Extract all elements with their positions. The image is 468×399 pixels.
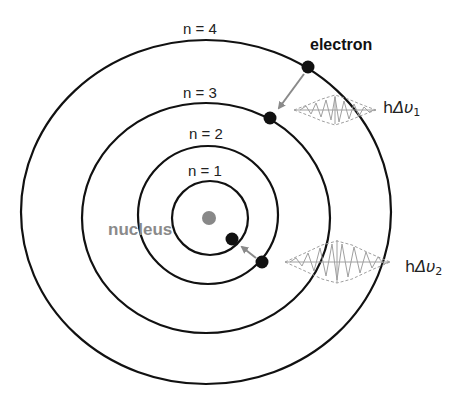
photon-label-1-delta: Δ [393, 98, 404, 117]
photon-label-2-nu: υ [426, 257, 435, 276]
nucleus-label: nucleus [108, 221, 172, 238]
photon-label-2-delta: Δ [415, 257, 426, 276]
photon-label-2-sub: 2 [435, 265, 442, 278]
orbit-label-n1: n = 1 [188, 163, 222, 178]
photon-label-1: hΔυ1 [383, 100, 420, 118]
orbit-label-n4: n = 4 [183, 21, 217, 36]
electron-n2 [256, 256, 269, 269]
photon-label-2-h: h [405, 257, 415, 276]
nucleus-dot [202, 211, 216, 225]
electron-n3 [264, 112, 277, 125]
orbit-label-n3: n = 3 [183, 85, 217, 100]
electron-label: electron [310, 37, 372, 53]
photon-label-1-h: h [383, 98, 393, 117]
photon-label-2: hΔυ2 [405, 259, 442, 277]
transition-arrow-2-to-1 [242, 247, 256, 258]
photon-wave-2-icon [285, 240, 390, 283]
orbit-label-n2: n = 2 [189, 126, 223, 141]
transition-arrow-4-to-3 [279, 74, 304, 108]
photon-label-1-nu: υ [404, 98, 413, 117]
electron-n4 [302, 61, 315, 74]
electron-n1 [226, 233, 239, 246]
bohr-model-diagram [0, 0, 468, 399]
photon-label-1-sub: 1 [413, 106, 420, 119]
